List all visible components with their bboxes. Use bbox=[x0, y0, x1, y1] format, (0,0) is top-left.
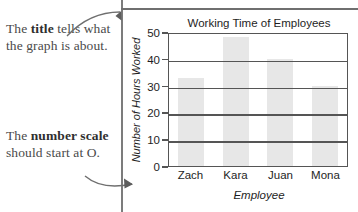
y-axis-tick-50: 50 bbox=[126, 26, 168, 40]
page-divider-horizontal-rule bbox=[121, 8, 358, 10]
y-axis-tick-label-30: 30 bbox=[147, 80, 160, 94]
annotation-scale-emphasis: number scale bbox=[31, 128, 109, 143]
bar-juan bbox=[267, 59, 293, 166]
chart-title: Working Time of Employees bbox=[166, 17, 352, 29]
x-axis-label: Employee bbox=[168, 189, 350, 201]
y-axis-tick-10: 10 bbox=[126, 133, 168, 147]
annotation-scale-text-tail: should start at O. bbox=[6, 145, 100, 160]
y-axis-tick-label-50: 50 bbox=[147, 26, 160, 40]
y-axis-tick-label-40: 40 bbox=[147, 53, 160, 67]
y-axis-tick-label-10: 10 bbox=[147, 133, 160, 147]
y-axis-tick-label-20: 20 bbox=[147, 106, 160, 120]
textbook-page: The title tells what the graph is about.… bbox=[0, 0, 358, 212]
y-axis-tick-0: 0 bbox=[126, 160, 168, 174]
y-axis-tick-30: 30 bbox=[126, 80, 168, 94]
bar-chart: Working Time of Employees Number of Hour… bbox=[126, 12, 354, 208]
x-axis-tick-labels: ZachKaraJuanMona bbox=[168, 169, 348, 181]
x-axis-tick-label-kara: Kara bbox=[215, 169, 257, 181]
bar-kara bbox=[223, 37, 249, 166]
y-axis-ticks: 50403020100 bbox=[126, 33, 168, 167]
bar-zach bbox=[178, 78, 204, 166]
x-axis-tick-label-zach: Zach bbox=[170, 169, 212, 181]
annotation-number-scale-callout: The number scale should start at O. bbox=[6, 128, 118, 161]
bar-mona bbox=[312, 86, 338, 166]
x-axis-tick-label-juan: Juan bbox=[260, 169, 302, 181]
annotation-title-text-lead: The bbox=[6, 21, 31, 36]
y-axis-tick-20: 20 bbox=[126, 106, 168, 120]
plot-area bbox=[168, 33, 348, 167]
y-axis-tick-label-0: 0 bbox=[154, 160, 160, 174]
annotation-title-emphasis: title bbox=[31, 21, 54, 36]
y-axis-tick-40: 40 bbox=[126, 53, 168, 67]
annotation-title-arrow-icon bbox=[66, 8, 128, 40]
bar-series bbox=[169, 34, 347, 166]
annotation-scale-text-lead: The bbox=[6, 128, 31, 143]
x-axis-tick-label-mona: Mona bbox=[305, 169, 347, 181]
